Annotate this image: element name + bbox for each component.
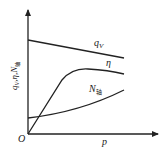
n-shaft-curve bbox=[28, 90, 124, 118]
origin-label: O bbox=[18, 133, 25, 144]
qv-label: qV bbox=[94, 37, 104, 50]
eta-curve bbox=[28, 69, 124, 134]
n-shaft-label: N轴 bbox=[88, 83, 102, 96]
diagram-svg: qV η N轴 O p qV,η,N轴 bbox=[0, 0, 166, 156]
qv-curve bbox=[28, 40, 124, 58]
eta-label: η bbox=[106, 57, 111, 68]
pump-characteristic-diagram: qV η N轴 O p qV,η,N轴 bbox=[0, 0, 166, 156]
y-axis-label: qV,η,N轴 bbox=[9, 62, 21, 90]
x-axis-label: p bbox=[101, 136, 107, 147]
